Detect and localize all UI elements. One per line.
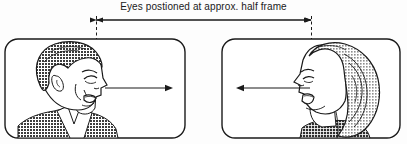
figure-canvas: Eyes postioned at approx. half frame [0,0,407,144]
illustration [0,0,407,144]
measurement-rule [96,17,311,22]
tv-frame-left [5,39,185,138]
tv-frame-right [222,39,400,138]
